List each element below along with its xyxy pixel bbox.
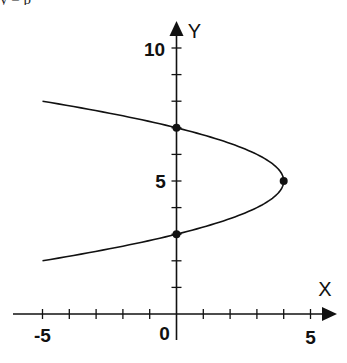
y-axis-label: Y xyxy=(188,20,201,42)
parabola-chart: -505510XY xyxy=(0,0,347,363)
origin-label: 0 xyxy=(159,323,170,344)
marked-points xyxy=(173,124,288,238)
y-tick-label: 5 xyxy=(155,171,166,192)
x-tick-label: 5 xyxy=(305,327,316,348)
x-tick-label: -5 xyxy=(34,325,51,346)
x-axis-label: X xyxy=(318,278,331,300)
x-axis-arrow-icon xyxy=(322,307,337,321)
y-axis-arrow-icon xyxy=(170,21,184,36)
axis-labels: -505510XY xyxy=(34,20,332,348)
marked-point xyxy=(173,124,181,132)
y-tick-label: 10 xyxy=(144,39,165,60)
marked-point xyxy=(280,177,288,185)
marked-point xyxy=(173,230,181,238)
